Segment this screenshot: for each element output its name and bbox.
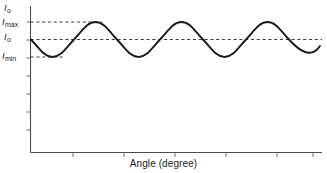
y-axis-title: Io bbox=[4, 3, 11, 13]
i-min-label: Imin bbox=[2, 51, 16, 61]
i-o-label-sub: o bbox=[7, 36, 11, 43]
i-min-label-sub: min bbox=[5, 55, 16, 62]
x-axis-ticks bbox=[73, 153, 313, 158]
y-axis-title-sub: o bbox=[7, 7, 11, 14]
x-axis-title: Angle (degree) bbox=[0, 158, 327, 169]
i-o-label: Io bbox=[4, 32, 11, 42]
chart-figure: Io Imax Io Imin Angle (degree) bbox=[0, 0, 327, 173]
i-max-label: Imax bbox=[2, 17, 18, 27]
chart-plot-area bbox=[0, 0, 327, 173]
i-max-label-sub: max bbox=[5, 21, 18, 28]
y-axis-ticks bbox=[27, 22, 31, 130]
